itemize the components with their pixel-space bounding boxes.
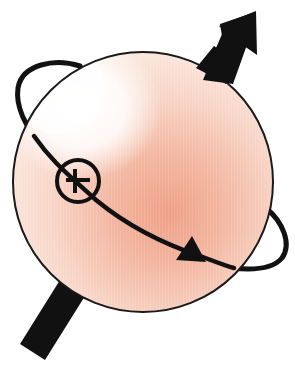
spin-diagram: Spinning particle with magnetic moment: [0, 0, 295, 366]
diagram-canvas: [0, 0, 295, 366]
